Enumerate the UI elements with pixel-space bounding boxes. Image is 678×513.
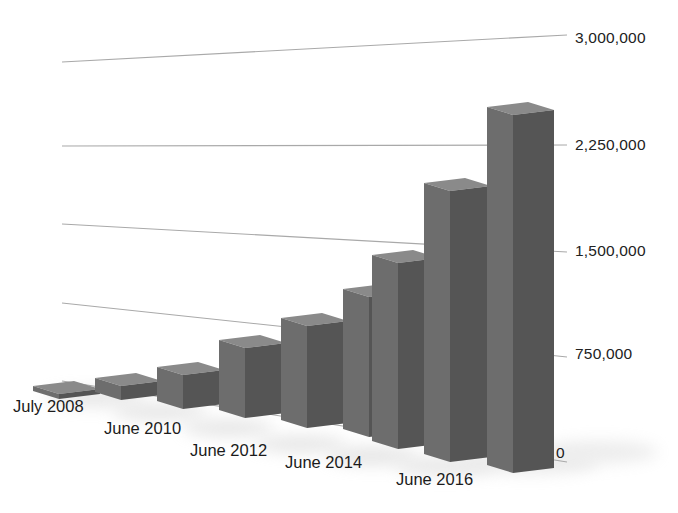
ytick-label-2250000: 2,250,000 (575, 136, 646, 153)
ytick-label-750000: 750,000 (575, 345, 633, 362)
xtick-label-june-2014: June 2014 (285, 453, 362, 471)
bar-side-face (450, 186, 491, 462)
bar-front-face (487, 107, 513, 473)
bar-side-face (245, 343, 286, 418)
bar-front-face (281, 318, 307, 428)
bar-4[interactable] (219, 335, 286, 418)
bar-june-2012[interactable] (281, 313, 348, 428)
xtick-label-june-2016: June 2016 (396, 470, 473, 488)
bar-side-face (513, 110, 554, 473)
xtick-label-june-2010: June 2010 (104, 419, 181, 437)
bar-front-face (424, 183, 450, 462)
bar-june-2016[interactable] (424, 178, 491, 462)
bar-front-face (343, 289, 369, 437)
bar-side-face (183, 370, 224, 409)
bar-front-face (219, 340, 245, 418)
ytick-label-1500000: 1,500,000 (575, 242, 646, 259)
bar-front-face (372, 255, 398, 449)
bar-chart: 3,000,000 2,250,000 1,500,000 750,000 0 … (0, 0, 678, 513)
bar-june-2010[interactable] (157, 362, 224, 409)
xtick-label-june-2012: June 2012 (190, 441, 267, 459)
ytick-label-0: 0 (556, 444, 565, 461)
xtick-label-july-2008: July 2008 (13, 397, 84, 415)
chart-canvas: 3,000,000 2,250,000 1,500,000 750,000 0 … (0, 0, 678, 513)
bar-side-face (307, 321, 348, 428)
ytick-label-3000000: 3,000,000 (575, 29, 646, 46)
bar-latest[interactable] (487, 102, 554, 473)
